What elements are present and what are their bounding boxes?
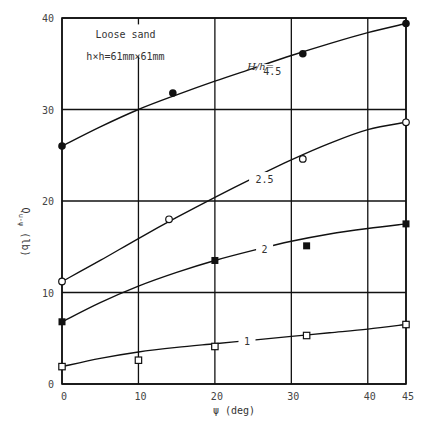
marker-open-square: [403, 321, 409, 327]
y-tick-label: 30: [42, 105, 54, 116]
marker-open-square: [135, 357, 141, 363]
annotations: Loose sandh×h=61mm×61mmH/h=: [71, 24, 274, 72]
y-tick-label: 40: [42, 13, 54, 24]
svg-text:Qu-ψ (lb): Qu-ψ (lb): [17, 208, 31, 257]
x-tick-label: 40: [364, 391, 376, 402]
marker-filled-square: [403, 220, 410, 227]
y-axis-ticks: 010203040: [42, 13, 54, 390]
y-tick-label: 20: [42, 196, 54, 207]
marker-filled-circle: [402, 20, 410, 28]
x-tick-label: 45: [402, 391, 414, 402]
x-axis-ticks: 01020304045: [61, 391, 414, 402]
annotation-size: h×h=61mm×61mm: [86, 51, 164, 62]
x-axis-label: ψ (deg): [213, 405, 255, 416]
marker-filled-square: [59, 318, 66, 325]
marker-filled-square: [303, 242, 310, 249]
curve-label: 2.5: [256, 174, 274, 185]
marker-open-square: [212, 343, 218, 349]
y-tick-label: 10: [42, 288, 54, 299]
x-tick-label: 20: [211, 391, 223, 402]
marker-filled-circle: [299, 50, 307, 58]
fit-curve: [62, 122, 406, 281]
marker-open-circle: [403, 119, 410, 126]
marker-open-circle: [166, 216, 173, 223]
marker-open-circle: [300, 156, 307, 163]
x-tick-label: 10: [134, 391, 146, 402]
annotation-material: Loose sand: [95, 29, 155, 40]
fit-curves: 4.52.521: [62, 23, 406, 366]
marker-open-square: [59, 363, 65, 369]
y-axis-label: Qu-ψ (lb): [17, 208, 31, 257]
marker-open-square: [303, 332, 309, 338]
marker-filled-square: [211, 257, 218, 264]
chart: 01020304045 010203040 4.52.521 Loose san…: [0, 0, 426, 432]
fit-curve: [62, 325, 406, 367]
grid-lines: [62, 18, 406, 384]
curve-label: 2: [262, 244, 268, 255]
marker-open-circle: [59, 278, 66, 285]
y-tick-label: 0: [48, 379, 54, 390]
data-markers: [58, 20, 410, 370]
fit-curve: [62, 224, 406, 322]
annotation-ratio-label: H/h=: [246, 61, 274, 72]
marker-filled-circle: [169, 89, 177, 97]
x-tick-label: 30: [287, 391, 299, 402]
x-tick-label: 0: [61, 391, 67, 402]
curve-label: 1: [244, 336, 250, 347]
marker-filled-circle: [58, 142, 66, 150]
